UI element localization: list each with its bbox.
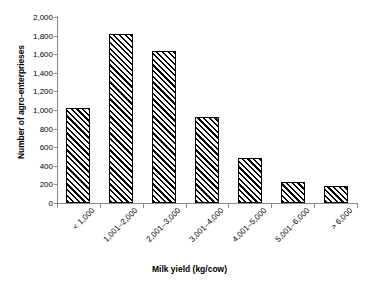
bar [281, 182, 305, 203]
bar [238, 158, 262, 203]
plot-area [57, 17, 357, 203]
bar [66, 108, 90, 203]
bar [324, 186, 348, 203]
x-axis-tick-labels: < 1,0001,001–2,0002,001–3,0003,001–4,000… [57, 206, 357, 266]
x-axis-title: Milk yield (kg/cow) [0, 264, 379, 274]
bar [195, 117, 219, 203]
bar [152, 51, 176, 203]
chart-container: Number of agro-enterprieses 020040060080… [0, 0, 379, 286]
x-axis-tick-mark [357, 204, 358, 208]
y-axis-title: Number of agro-enterprieses [16, 7, 26, 197]
bar [109, 34, 133, 203]
